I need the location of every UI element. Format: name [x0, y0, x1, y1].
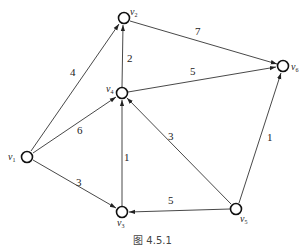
edge-v4-v2 — [122, 25, 123, 87]
label-v2: v2 — [130, 6, 137, 18]
weight-v4-v2: 2 — [127, 52, 133, 64]
node-labels: v1 v2 v3 v4 v5 v6 — [8, 6, 298, 229]
edge-v4-v6 — [128, 67, 276, 92]
edge-v2-v6 — [130, 21, 277, 64]
weight-v1-v3: 3 — [76, 176, 82, 188]
weight-v5-v3: 5 — [168, 194, 174, 206]
label-v1: v1 — [8, 151, 15, 163]
node-v6 — [278, 61, 289, 72]
weight-v5-v4: 3 — [168, 130, 174, 142]
weight-v5-v6: 1 — [267, 131, 273, 143]
node-v3 — [117, 207, 128, 218]
figure-caption: 图 4.5.1 — [0, 232, 305, 247]
label-v3: v3 — [117, 217, 124, 229]
weight-v4-v6: 5 — [190, 65, 196, 77]
edge-v1-v3 — [33, 160, 116, 208]
edge-weights: 4 6 3 2 7 5 1 3 5 1 — [70, 25, 273, 206]
nodes — [22, 13, 289, 218]
weight-v1-v2: 4 — [70, 66, 76, 78]
weight-v2-v6: 7 — [195, 25, 201, 37]
label-v6: v6 — [291, 61, 298, 73]
edge-v5-v4 — [127, 98, 231, 204]
weight-v3-v4: 1 — [124, 151, 130, 163]
label-v5: v5 — [240, 213, 247, 225]
edge-v5-v3 — [129, 209, 230, 212]
weight-v1-v4: 6 — [77, 124, 83, 136]
edges — [31, 21, 281, 212]
edge-v5-v6 — [239, 73, 281, 203]
node-v4 — [117, 88, 128, 99]
label-v4: v4 — [106, 83, 113, 95]
node-v2 — [119, 13, 130, 24]
node-v1 — [22, 152, 33, 163]
edge-v1-v4 — [33, 97, 116, 153]
